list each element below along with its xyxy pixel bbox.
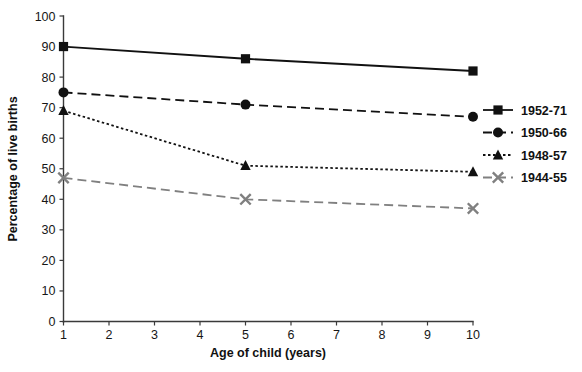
legend-marker <box>493 105 502 114</box>
data-point-marker <box>468 112 478 122</box>
series-layer <box>58 42 478 214</box>
series-1952-71 <box>59 42 478 76</box>
legend-label: 1948-57 <box>521 149 567 163</box>
data-point-marker <box>59 87 69 97</box>
y-tick-label: 70 <box>42 101 56 115</box>
legend-label: 1952-71 <box>521 104 567 118</box>
line-chart: 0102030405060708090100 12345678910 Age o… <box>0 0 582 372</box>
series-line <box>64 111 474 172</box>
y-tick-label: 0 <box>49 315 56 329</box>
chart-legend: 1952-711950-661948-571944-55 <box>483 104 567 186</box>
y-tick-label: 100 <box>35 10 56 24</box>
legend-item-1950-66[interactable]: 1950-66 <box>483 126 567 140</box>
chart-canvas: 0102030405060708090100 12345678910 Age o… <box>0 0 582 372</box>
y-tick-label: 80 <box>42 71 56 85</box>
x-tick-label: 3 <box>151 328 158 342</box>
series-line <box>64 178 474 209</box>
x-tick-label: 8 <box>379 328 386 342</box>
series-1944-55 <box>58 173 478 214</box>
x-tick-label: 9 <box>424 328 431 342</box>
y-axis-title: Percentage of live births <box>6 96 20 241</box>
x-tick-label: 1 <box>60 328 67 342</box>
legend-item-1948-57[interactable]: 1948-57 <box>483 149 567 163</box>
x-tick-label: 4 <box>197 328 204 342</box>
legend-label: 1950-66 <box>521 126 567 140</box>
legend-item-1944-55[interactable]: 1944-55 <box>483 171 567 185</box>
data-point-marker <box>241 100 251 110</box>
series-line <box>64 47 474 71</box>
y-tick-label: 10 <box>42 284 56 298</box>
series-1950-66 <box>59 87 479 121</box>
y-tick-label: 90 <box>42 40 56 54</box>
data-point-marker <box>59 42 68 51</box>
x-tick-label: 5 <box>242 328 249 342</box>
y-tick-label: 60 <box>42 132 56 146</box>
series-1948-57 <box>58 105 478 176</box>
legend-label: 1944-55 <box>521 171 567 185</box>
y-tick-label: 20 <box>42 254 56 268</box>
data-point-marker <box>58 105 68 115</box>
x-axis-title: Age of child (years) <box>210 346 326 360</box>
legend-marker <box>493 128 503 138</box>
legend-item-1952-71[interactable]: 1952-71 <box>483 104 567 118</box>
data-point-marker <box>241 54 250 63</box>
y-tick-label: 50 <box>42 162 56 176</box>
data-point-marker <box>468 66 477 75</box>
x-tick-label: 6 <box>288 328 295 342</box>
y-tick-label: 30 <box>42 223 56 237</box>
plot-area <box>64 16 474 322</box>
x-tick-label: 2 <box>106 328 113 342</box>
x-tick-label: 10 <box>466 328 480 342</box>
y-tick-label: 40 <box>42 193 56 207</box>
x-axis-ticks: 12345678910 <box>60 322 480 342</box>
series-line <box>64 92 474 116</box>
x-tick-label: 7 <box>333 328 340 342</box>
y-axis-ticks: 0102030405060708090100 <box>35 10 64 330</box>
data-point-marker <box>468 166 478 176</box>
